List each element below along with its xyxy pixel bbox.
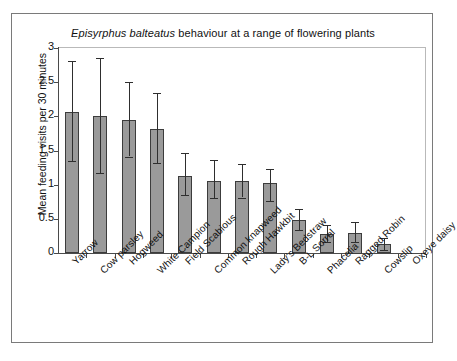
- error-bar-cap-lower: [153, 163, 161, 164]
- error-bar-cap-upper: [210, 160, 218, 161]
- error-bar-cap-upper: [153, 93, 161, 94]
- error-bar-cap-lower: [295, 230, 303, 231]
- error-bar-line: [270, 169, 271, 201]
- y-tick-label: 1.5: [26, 144, 54, 155]
- error-bar-line: [185, 153, 186, 195]
- y-tick-label: 0.5: [26, 212, 54, 223]
- error-bar-cap-lower: [210, 198, 218, 199]
- error-bar-line: [157, 93, 158, 163]
- y-tick-mark: [54, 82, 58, 83]
- y-tick-mark: [54, 219, 58, 220]
- y-axis-line: [58, 47, 59, 254]
- chart-title: Episyrphus balteatus behaviour at a rang…: [18, 27, 428, 39]
- y-tick-mark: [54, 253, 58, 254]
- error-bar-cap-upper: [351, 222, 359, 223]
- error-bar-cap-upper: [181, 153, 189, 154]
- y-tick-label: 2: [26, 109, 54, 120]
- chart-title-species: Episyrphus balteatus: [71, 27, 175, 39]
- error-bar-line: [129, 82, 130, 156]
- y-tick-label: 2.5: [26, 75, 54, 86]
- y-axis-label: Mean feeding visits per 30 minutes: [36, 34, 48, 234]
- y-tick-label: 1: [26, 178, 54, 189]
- y-tick-mark: [54, 116, 58, 117]
- y-tick-mark: [54, 48, 58, 49]
- error-bar-cap-lower: [380, 250, 388, 251]
- y-tick-mark: [54, 185, 58, 186]
- error-bar-line: [100, 58, 101, 173]
- error-bar-cap-lower: [181, 195, 189, 196]
- error-bar-cap-lower: [125, 157, 133, 158]
- y-tick-mark: [54, 151, 58, 152]
- error-bar-line: [299, 209, 300, 230]
- error-bar-cap-lower: [96, 173, 104, 174]
- error-bar-line: [242, 164, 243, 197]
- error-bar-line: [72, 61, 73, 161]
- error-bar-cap-upper: [125, 82, 133, 83]
- error-bar-cap-lower: [266, 201, 274, 202]
- error-bar-line: [214, 160, 215, 198]
- chart-title-rest: behaviour at a range of flowering plants: [175, 27, 375, 39]
- error-bar-cap-lower: [238, 198, 246, 199]
- error-bar-cap-upper: [238, 164, 246, 165]
- error-bar-cap-lower: [68, 161, 76, 162]
- y-tick-label: 0: [26, 246, 54, 257]
- y-tick-label: 3: [26, 41, 54, 52]
- error-bar-cap-upper: [96, 58, 104, 59]
- error-bar-line: [355, 222, 356, 242]
- error-bar-cap-upper: [266, 169, 274, 170]
- error-bar-cap-upper: [295, 209, 303, 210]
- error-bar-cap-upper: [68, 61, 76, 62]
